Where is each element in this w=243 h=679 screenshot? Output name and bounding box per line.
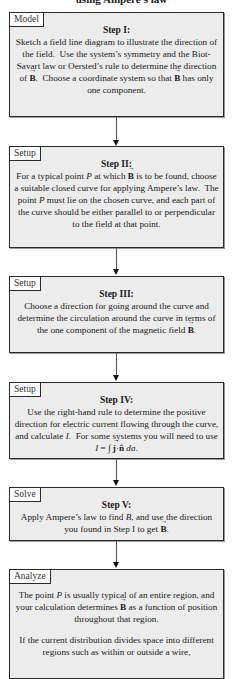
step-1-box: Model Step I: Sketch a field line diagra… [9,12,224,117]
step-2-box: Setup Step II: For a typical point P at … [9,146,224,248]
step-4-text: Use the right-hand rule to determine the… [10,406,223,454]
step-3-box: Setup Step III: Choose a direction for g… [9,276,224,353]
step-1-text: Sketch a field line diagram to illustrat… [10,36,223,96]
connector-arrow [116,248,117,270]
analyze-box: Analyze The point P is usually typical o… [9,569,224,679]
connector-arrow [116,353,117,376]
diagram-title: using Ampere's law [0,0,243,5]
analyze-text-2: If the current distribution divides spac… [10,634,223,658]
step-5-text: Apply Ampere’s law to find B, and use th… [10,511,223,535]
step-4-tag: Setup [9,382,41,397]
connector-arrow [116,117,117,141]
arrow-head-icon [113,480,119,486]
analyze-tag: Analyze [9,569,51,584]
step-3-heading: Step III: [10,289,223,300]
arrow-head-icon [113,562,119,568]
step-3-text: Choose a direction for going around the … [10,300,223,336]
step-2-heading: Step II: [10,159,223,170]
step-5-box: Solve Step V: Apply Ampere’s law to find… [9,487,224,541]
step-3-tag: Setup [9,276,41,291]
step-1-tag: Model [9,12,44,27]
step-5-tag: Solve [9,487,41,502]
arrow-head-icon [113,375,119,381]
analyze-text-1: The point P is usually typical of an ent… [10,589,223,625]
arrow-head-icon [113,269,119,275]
step-2-text: For a typical point P at which B is to b… [10,170,223,230]
connector-arrow [116,459,117,481]
connector-arrow [116,541,117,563]
step-5-heading: Step V: [10,500,223,511]
step-2-tag: Setup [9,146,41,161]
step-4-box: Setup Step IV: Use the right-hand rule t… [9,382,224,459]
step-4-heading: Step IV: [10,395,223,406]
